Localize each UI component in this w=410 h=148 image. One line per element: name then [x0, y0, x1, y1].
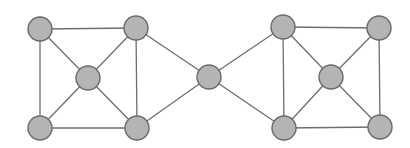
edge-R-TR-R-BR — [379, 28, 380, 127]
graph-diagram — [0, 0, 410, 148]
edge-M-R-BL — [209, 77, 284, 128]
node-R-BL — [272, 116, 296, 140]
node-R-TR — [367, 16, 391, 40]
node-layer — [28, 15, 392, 140]
node-M — [197, 65, 221, 89]
node-L-BR — [125, 116, 149, 140]
edge-R-TL-R-TR — [283, 27, 379, 28]
node-L-C — [76, 66, 100, 90]
edge-L-TR-L-BR — [136, 28, 137, 128]
node-R-TL — [271, 15, 295, 39]
node-R-BR — [368, 115, 392, 139]
edge-R-BL-R-BR — [284, 127, 380, 128]
edge-R-TL-R-BL — [283, 27, 284, 128]
node-L-BL — [28, 116, 52, 140]
edge-L-TR-M — [136, 28, 209, 77]
edge-M-R-TL — [209, 27, 283, 77]
edge-L-BR-M — [137, 77, 209, 128]
node-L-TR — [124, 16, 148, 40]
node-L-TL — [28, 17, 52, 41]
node-R-C — [319, 65, 343, 89]
edge-L-TL-L-TR — [40, 28, 136, 29]
